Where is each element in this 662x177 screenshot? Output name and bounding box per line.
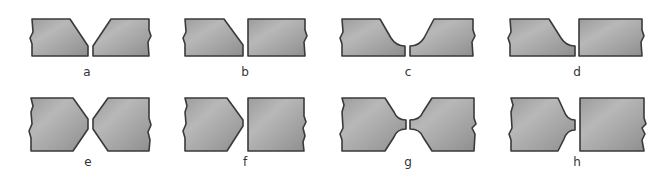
panel-label: d [573, 65, 581, 79]
plate-right-square [248, 19, 307, 56]
panel-e: e [29, 98, 151, 169]
plate-right-square [248, 98, 306, 151]
panel-h: h [509, 98, 646, 169]
plate-left-beveled [30, 19, 88, 56]
panel-d: d [508, 19, 644, 79]
panel-g: g [340, 98, 476, 169]
plate-left-double-beveled [29, 98, 88, 151]
plate-left-double-j-groove [509, 98, 575, 151]
plate-right-square [580, 98, 646, 151]
plate-right-double-u-groove [410, 98, 476, 151]
panel-label: g [404, 155, 412, 169]
panel-label: a [83, 65, 90, 79]
plate-left-double-u-groove [340, 98, 406, 151]
panel-label: e [84, 155, 91, 169]
plate-right-beveled [93, 19, 151, 56]
panel-a: a [30, 19, 151, 79]
plate-right-square [579, 19, 644, 56]
plate-right-u-groove [410, 19, 475, 56]
panel-label: f [243, 155, 248, 169]
plate-left-beveled [183, 19, 243, 56]
plate-left-double-beveled [183, 98, 243, 151]
panel-label: h [573, 155, 581, 169]
panel-f: f [183, 98, 306, 169]
panel-label: b [241, 65, 249, 79]
panel-label: c [405, 65, 412, 79]
panel-b: b [183, 19, 307, 79]
plate-left-u-groove [340, 19, 405, 56]
plate-right-double-beveled [93, 98, 151, 151]
plate-left-j-groove [508, 19, 575, 56]
panel-c: c [340, 19, 475, 79]
weld-joint-diagram: a b c d e f g h [0, 0, 662, 177]
